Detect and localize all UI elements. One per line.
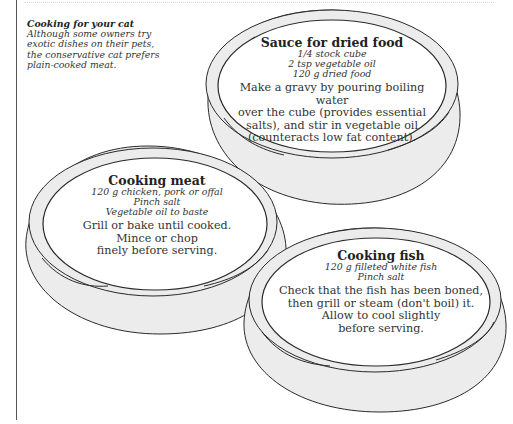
method-line: before serving. <box>276 323 486 336</box>
recipe-method: Check that the fish has been boned, then… <box>276 285 486 335</box>
intro-body: Although some owners try exotic dishes o… <box>27 29 187 70</box>
method-line: finely before serving. <box>60 245 254 258</box>
ingredient: Vegetable oil to baste <box>60 207 254 217</box>
recipe-method: Make a gravy by pouring boiling water ov… <box>222 82 442 145</box>
recipe-sauce: Sauce for dried food 1/4 stock cube 2 ts… <box>222 36 442 145</box>
intro-line: plain-cooked meat. <box>27 60 187 70</box>
recipe-method: Grill or bake until cooked. Mince or cho… <box>60 220 254 258</box>
method-line: (counteracts low fat content). <box>222 132 442 145</box>
method-line: Check that the fish has been boned, <box>276 285 486 298</box>
method-line: Grill or bake until cooked. <box>60 220 254 233</box>
intro-block: Cooking for your cat Although some owner… <box>27 19 187 70</box>
method-line: over the cube (provides essential <box>222 107 442 120</box>
page: Cooking for your cat Although some owner… <box>0 0 513 424</box>
ingredient: Pinch salt <box>276 272 486 282</box>
ingredient: 120 g dried food <box>222 69 442 79</box>
recipe-meat: Cooking meat 120 g chicken, pork or offa… <box>60 174 254 258</box>
method-line: Make a gravy by pouring boiling water <box>222 82 442 107</box>
recipe-fish: Cooking fish 120 g filleted white fish P… <box>276 249 486 335</box>
method-line: Allow to cool slightly <box>276 310 486 323</box>
